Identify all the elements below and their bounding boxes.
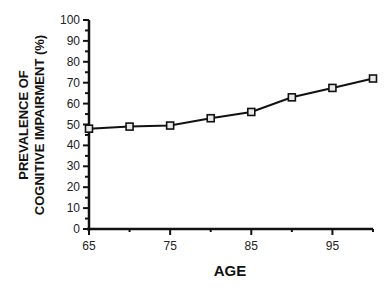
y-tick-label: 90 (67, 34, 81, 48)
data-point-marker (248, 108, 255, 115)
y-tick-label: 50 (67, 118, 81, 132)
y-tick-label: 60 (67, 97, 81, 111)
data-point-marker (207, 115, 214, 122)
data-point-marker (329, 84, 336, 91)
x-axis-title: AGE (214, 262, 247, 279)
data-point-marker (126, 123, 133, 130)
y-tick-label: 30 (67, 159, 81, 173)
x-tick-label: 95 (326, 239, 340, 253)
data-point-marker (370, 75, 377, 82)
y-tick-label: 40 (67, 138, 81, 152)
x-tick-label: 85 (245, 239, 259, 253)
data-point-marker (288, 94, 295, 101)
plot-area: 010203040506070809010065758595 (60, 13, 377, 253)
line-chart: 010203040506070809010065758595 PREVALENC… (0, 0, 391, 292)
y-axis-title-line2: COGNITIVE IMPAIRMENT (%) (32, 35, 47, 215)
data-point-marker (86, 125, 93, 132)
y-tick-label: 10 (67, 201, 81, 215)
y-tick-label: 100 (60, 13, 80, 27)
y-tick-label: 80 (67, 55, 81, 69)
y-tick-label: 0 (73, 222, 80, 236)
x-tick-label: 65 (82, 239, 96, 253)
x-tick-label: 75 (163, 239, 177, 253)
y-tick-label: 70 (67, 76, 81, 90)
y-tick-label: 20 (67, 180, 81, 194)
data-point-marker (167, 122, 174, 129)
y-axis-title-line1: PREVALENCE OF (16, 70, 31, 180)
